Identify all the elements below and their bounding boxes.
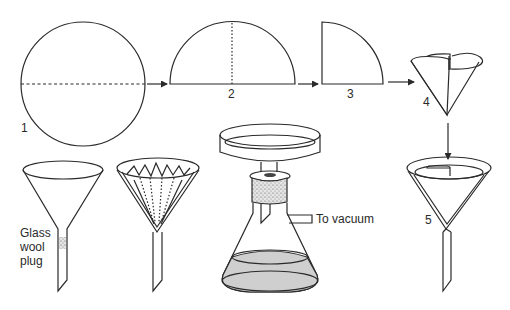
glass-wool-plug: [59, 237, 66, 249]
glass-wool-label-line-3: plug: [20, 254, 43, 268]
step-2-semicircle: 2: [170, 22, 295, 101]
glass-wool-funnel: Glass wool plug: [19, 161, 103, 291]
step-5-funnel-with-cone: 5: [407, 157, 491, 291]
vacuum-label: To vacuum: [316, 212, 374, 226]
glass-wool-label-line-2: wool: [19, 240, 45, 254]
buchner-flask-apparatus: To vacuum: [220, 124, 374, 292]
rubber-stopper: [252, 178, 287, 204]
step-4-label: 4: [423, 95, 430, 109]
step-3-quarter-circle: 3: [322, 22, 383, 101]
filtration-diagram: 1 2 3 4 5: [0, 0, 510, 310]
step-1-label: 1: [21, 121, 28, 135]
fluted-filter-funnel: [117, 158, 199, 291]
step-5-label: 5: [425, 213, 432, 227]
step-4-cone: 4: [411, 53, 483, 115]
step-3-label: 3: [347, 87, 354, 101]
step-1-circle: 1: [21, 22, 145, 146]
step-2-label: 2: [228, 87, 235, 101]
glass-wool-label-line-1: Glass: [20, 226, 51, 240]
